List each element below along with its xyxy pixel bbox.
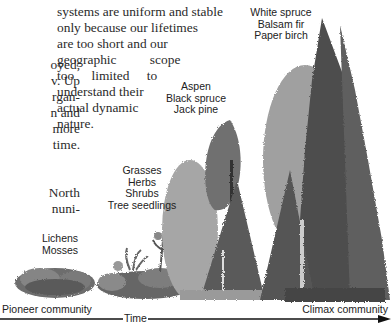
text-line: are too short and our (57, 36, 257, 52)
climax-forest-icon (260, 18, 390, 302)
stage-label-mid: Aspen Black spruce Jack pine (160, 81, 232, 116)
species-label: Jack pine (160, 104, 232, 116)
stage-label-pioneer: Lichens Mosses (30, 233, 90, 256)
species-label: Mosses (30, 245, 90, 257)
lichen-rock-icon (15, 268, 95, 298)
species-label: White spruce (236, 7, 326, 19)
species-label: Lichens (30, 233, 90, 245)
species-label: Shrubs (97, 188, 187, 200)
stage-label-climax: White spruce Balsam fir Paper birch (236, 7, 326, 42)
stage-label-early: Grasses Herbs Shrubs Tree seedlings (97, 165, 187, 211)
text-line: systems are uniform and stable (57, 4, 257, 20)
body-text-left-column-lower: North nuni- (0, 185, 80, 217)
time-axis-arrowhead-icon (378, 315, 391, 323)
text-line: nuni- (0, 201, 80, 217)
time-axis-label: Time (123, 313, 148, 324)
species-label: Tree seedlings (97, 200, 187, 212)
text-line: nature. (57, 116, 257, 132)
text-line: geographic scope (57, 52, 257, 68)
pioneer-community-label: Pioneer community (2, 304, 92, 316)
species-label: Aspen (160, 81, 232, 93)
species-label: Grasses (97, 165, 187, 177)
species-label: Paper birch (236, 30, 326, 42)
climax-community-label: Climax community (282, 304, 388, 316)
text-line: time. (0, 137, 80, 153)
text-line: only because our lifetimes (57, 20, 257, 36)
text-line: North (0, 185, 80, 201)
